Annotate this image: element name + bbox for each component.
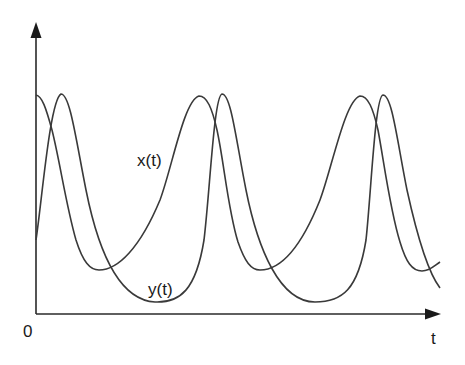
t-axis-label: t [431, 329, 436, 348]
y-curve-label: y(t) [148, 280, 173, 299]
x-axis-arrow-icon [425, 309, 441, 320]
axes [31, 22, 442, 320]
y-axis-arrow-icon [31, 22, 42, 38]
curve-y-t [36, 94, 440, 302]
origin-label: 0 [23, 322, 32, 341]
x-curve-label: x(t) [137, 151, 162, 170]
phase-plot: x(t) y(t) 0 t [0, 0, 465, 365]
curve-x-t [36, 95, 440, 271]
